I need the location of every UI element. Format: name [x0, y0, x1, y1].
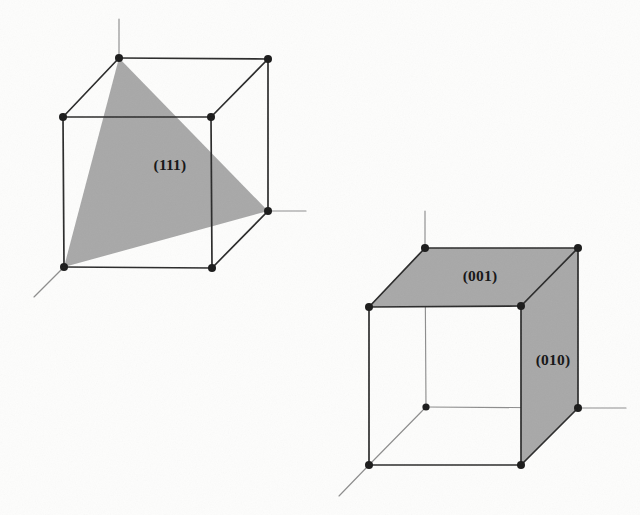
vertex-back-bottom-left-right-cube — [422, 403, 429, 410]
axis-diagonal-line-left — [34, 267, 64, 297]
edge-back-top — [119, 58, 268, 59]
vertex-front-top-left — [59, 113, 67, 121]
axis-diagonal-line-right — [339, 465, 369, 496]
cube-diagram-111: (111) — [34, 19, 306, 297]
edge-front-left-vertical — [63, 117, 64, 267]
hidden-edge-depth-bottom-left — [369, 407, 426, 465]
cube-diagram-001-010: (001) (010) — [339, 211, 626, 496]
edge-depth-top-right — [211, 59, 268, 117]
plane-label-001: (001) — [463, 267, 498, 285]
vertex-front-bottom-left-right-cube — [365, 461, 373, 469]
figure-root: (111) — [0, 0, 640, 515]
vertex-front-bottom-right — [208, 264, 216, 272]
edge-front-top-right-cube — [369, 306, 521, 307]
vertex-back-top-left-right-cube — [421, 244, 429, 252]
vertex-back-bottom-right — [264, 207, 272, 215]
crystal-plane-figure: (111) — [0, 0, 640, 515]
vertex-back-bottom-right-right-cube — [574, 404, 582, 412]
vertex-front-bottom-left — [60, 263, 68, 271]
plane-label-010: (010) — [536, 351, 571, 369]
edge-front-right-vertical — [211, 117, 212, 268]
plane-label-111: (111) — [154, 156, 187, 174]
vertex-back-top-right — [264, 55, 272, 63]
vertex-front-top-left-right-cube — [365, 303, 373, 311]
vertex-front-top-right-right-cube — [517, 302, 525, 310]
vertex-back-top-right-right-cube — [574, 244, 582, 252]
vertex-front-bottom-right-right-cube — [517, 461, 525, 469]
edge-front-bottom — [64, 267, 212, 268]
vertex-back-top-left — [115, 54, 123, 62]
vertex-front-top-right — [207, 113, 215, 121]
